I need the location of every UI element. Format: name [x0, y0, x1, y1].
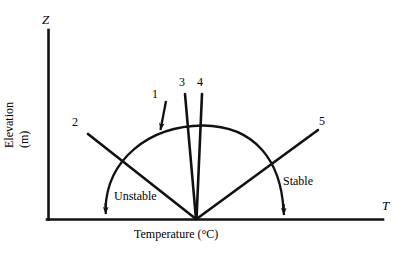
x-axis-title: Temperature (°C): [134, 228, 218, 240]
y-axis-letter: Z: [42, 13, 49, 26]
y-axis-title-wrapper: Elevation (m): [8, 60, 26, 190]
curve-line-3: [185, 94, 196, 219]
curve-label-5: 5: [319, 115, 325, 127]
stability-diagram-figure: Z Elevation (m) T Temperature (°C) 1 2 3…: [0, 0, 411, 254]
curve-line-4: [197, 94, 203, 219]
curve-label-4: 4: [197, 76, 203, 88]
curve-label-2: 2: [72, 116, 78, 128]
curve-label-3: 3: [179, 76, 185, 88]
y-axis-title: Elevation (m): [2, 102, 32, 148]
curve-line-1: [161, 101, 167, 130]
curve-label-1: 1: [152, 88, 158, 100]
curve-line-1-group: [161, 101, 167, 130]
curve-line-2: [88, 134, 196, 219]
region-label-stable: Stable: [283, 175, 313, 187]
diagram-canvas: [0, 0, 411, 254]
region-label-unstable: Unstable: [114, 190, 157, 202]
axes-group: [47, 30, 383, 220]
x-axis-letter: T: [382, 199, 389, 212]
